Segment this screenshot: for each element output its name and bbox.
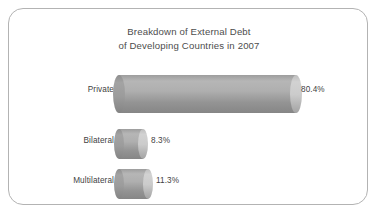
plot-area: Private 80.4% Bilateral 8.3%: [9, 9, 369, 206]
figure-container: Breakdown of External Debt of Developing…: [0, 0, 381, 217]
value-label-multilateral: 11.3%: [156, 176, 179, 185]
bar-multilateral-cap-left: [114, 169, 124, 199]
category-label-bilateral: Bilateral: [9, 136, 114, 145]
bar-row-private: Private 80.4%: [9, 68, 369, 114]
bar-private[interactable]: [119, 75, 296, 113]
bar-private-body: [119, 75, 296, 113]
bar-bilateral-cap-right: [138, 129, 148, 159]
category-label-private: Private: [9, 85, 114, 94]
bar-row-multilateral: Multilateral 11.3%: [9, 162, 369, 208]
bar-multilateral[interactable]: [119, 169, 148, 199]
bar-bilateral-cap-left: [114, 129, 124, 159]
chart-frame: Breakdown of External Debt of Developing…: [8, 8, 368, 205]
bar-private-cap-right: [290, 75, 302, 113]
bar-bilateral[interactable]: [119, 129, 143, 159]
value-label-private: 80.4%: [301, 85, 325, 94]
value-label-bilateral: 8.3%: [151, 136, 170, 145]
bar-multilateral-cap-right: [143, 169, 153, 199]
bar-private-cap-left: [113, 75, 125, 113]
caption-cropped-strip: [28, 212, 350, 217]
category-label-multilateral: Multilateral: [9, 176, 114, 185]
